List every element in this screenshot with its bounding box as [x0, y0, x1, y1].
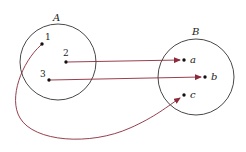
element-c-dot [182, 93, 185, 96]
function-mapping-diagram: A 1 2 3 B a b c [0, 0, 246, 152]
element-c-label: c [190, 89, 196, 100]
mapping-arrows [16, 45, 201, 139]
element-2-label: 2 [63, 48, 69, 58]
set-a-label: A [52, 12, 60, 23]
set-b-label: B [191, 26, 199, 37]
set-b: B a b c [158, 26, 234, 115]
element-b-dot [203, 75, 206, 78]
element-3-label: 3 [40, 69, 46, 79]
arrow-1-to-c [16, 45, 180, 139]
element-a-dot [182, 58, 185, 61]
element-1-label: 1 [45, 32, 51, 42]
arrow-3-to-b [50, 77, 201, 80]
element-b-label: b [211, 71, 217, 82]
arrow-2-to-a [67, 60, 180, 62]
element-a-label: a [190, 54, 196, 65]
